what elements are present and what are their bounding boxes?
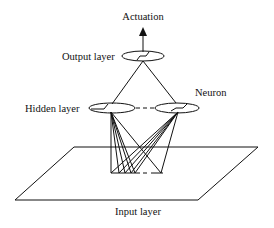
hidden-neuron-right	[155, 103, 199, 113]
actuation-arrow-icon	[139, 27, 147, 52]
input-layer-label: Input layer	[115, 206, 161, 217]
neuron-label: Neuron	[195, 87, 227, 98]
actuation-label: Actuation	[122, 11, 164, 22]
connection-line	[143, 61, 176, 103]
hidden-neuron-left	[89, 103, 135, 113]
output-layer-label: Output layer	[62, 51, 115, 62]
output-neuron	[122, 51, 164, 61]
connection-line	[112, 61, 143, 104]
neural-network-diagram: Actuation Output layer Hidden layer Neur…	[0, 0, 274, 228]
left-hidden-fan	[111, 112, 161, 173]
hidden-layer-label: Hidden layer	[25, 103, 80, 114]
